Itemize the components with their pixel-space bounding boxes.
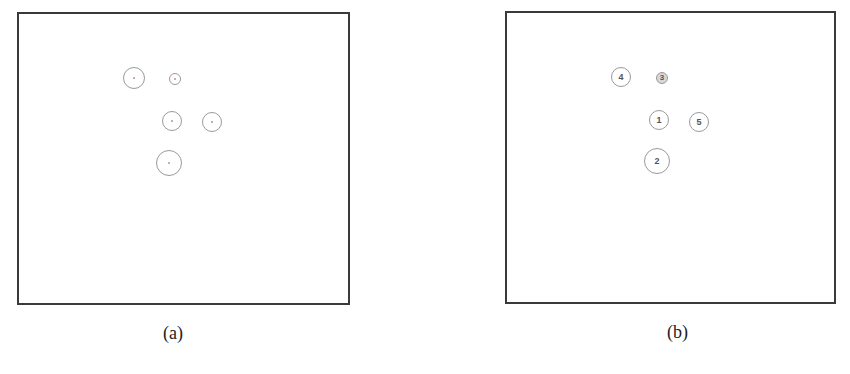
circle-label: 1	[656, 116, 661, 125]
circle-label: 4	[618, 73, 623, 82]
center-dot	[171, 120, 173, 122]
center-dot	[168, 162, 170, 164]
center-dot	[174, 78, 176, 80]
blob-circle-a5	[156, 150, 182, 176]
blob-circle-a3	[162, 111, 182, 131]
caption-b: (b)	[667, 322, 688, 343]
numbered-circle-4: 4	[611, 67, 631, 87]
center-dot	[211, 121, 213, 123]
circle-label: 2	[654, 157, 659, 166]
numbered-circle-1: 1	[649, 110, 669, 130]
numbered-circle-2: 2	[644, 148, 670, 174]
blob-circle-a4	[202, 112, 222, 132]
numbered-circle-3: 3	[656, 72, 668, 84]
circle-label: 3	[660, 74, 664, 82]
panel-a-frame	[17, 12, 350, 305]
blob-circle-a2	[169, 73, 181, 85]
blob-circle-a1	[123, 67, 145, 89]
panel-b-frame	[505, 11, 836, 304]
circle-label: 5	[696, 118, 701, 127]
numbered-circle-5: 5	[689, 112, 709, 132]
center-dot	[133, 77, 135, 79]
caption-a: (a)	[163, 323, 183, 344]
